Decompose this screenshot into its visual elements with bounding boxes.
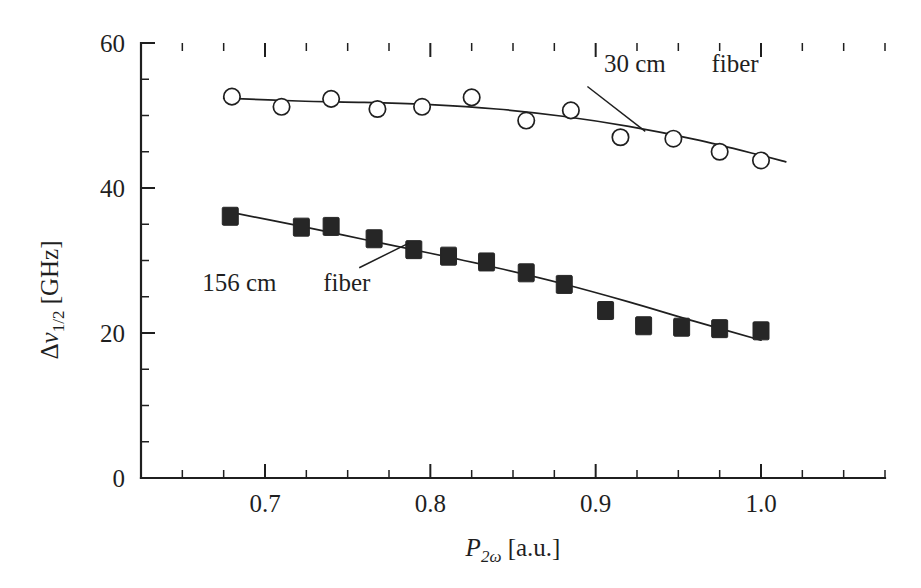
data-point-open-circle [753, 152, 769, 168]
y-title-subscript: 1/2 [49, 311, 68, 333]
y-tick-label: 40 [100, 175, 125, 202]
chart-canvas: 0204060 0.70.80.91.0 30 cm fiber 156 cm … [0, 0, 921, 588]
figure-root: 0204060 0.70.80.91.0 30 cm fiber 156 cm … [0, 0, 921, 588]
data-point-filled-square [441, 247, 457, 265]
figure-background [0, 0, 921, 588]
annotation-30cm-secondary-label: fiber [711, 50, 759, 77]
data-point-open-circle [463, 89, 479, 105]
y-title-delta: Δ [36, 343, 63, 359]
data-point-filled-square [674, 318, 690, 336]
data-point-open-circle [323, 91, 339, 107]
data-point-open-circle [563, 102, 579, 118]
data-point-filled-square [479, 253, 495, 271]
x-title-symbol: P [465, 534, 481, 561]
data-point-open-circle [665, 131, 681, 147]
data-point-open-circle [273, 99, 289, 115]
data-point-filled-square [753, 322, 769, 340]
data-point-filled-square [556, 275, 572, 293]
data-point-open-circle [612, 129, 628, 145]
data-point-open-circle [518, 112, 534, 128]
annotation-156cm-secondary-label: fiber [323, 269, 371, 296]
data-point-filled-square [518, 264, 534, 282]
data-point-open-circle [224, 88, 240, 104]
x-tick-label: 0.9 [580, 490, 611, 517]
x-title-unit: [a.u.] [501, 534, 560, 561]
data-point-filled-square [323, 217, 339, 235]
data-point-open-circle [414, 99, 430, 115]
annotation-156cm-main-label: 156 cm [202, 269, 277, 296]
data-point-filled-square [293, 218, 309, 236]
data-point-open-circle [711, 144, 727, 160]
data-point-filled-square [636, 317, 652, 335]
y-tick-label: 60 [100, 30, 125, 57]
y-tick-label: 20 [100, 320, 125, 347]
data-point-filled-square [222, 207, 238, 225]
x-title-subscript: 2ω [481, 547, 502, 566]
data-point-filled-square [712, 320, 728, 338]
x-tick-label: 0.7 [249, 490, 280, 517]
y-tick-label: 0 [113, 465, 126, 492]
y-title-unit: [GHz] [36, 240, 63, 310]
x-tick-label: 0.8 [415, 490, 446, 517]
data-point-filled-square [598, 302, 614, 320]
data-point-filled-square [366, 230, 382, 248]
data-point-open-circle [369, 101, 385, 117]
annotation-30cm-main-label: 30 cm [604, 50, 666, 77]
x-tick-label: 1.0 [745, 490, 776, 517]
